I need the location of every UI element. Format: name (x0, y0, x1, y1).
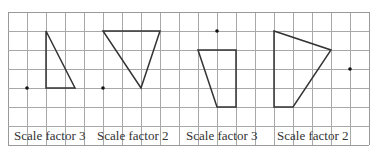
scale-factor-label-3: Scale factor 3 (186, 126, 257, 145)
centre-of-enlargement-dot-1 (25, 86, 29, 90)
centre-of-enlargement-dot-3 (215, 29, 219, 33)
triangle-shape-2 (103, 31, 160, 88)
scale-factor-label-1: Scale factor 3 (14, 126, 85, 145)
centre-of-enlargement-dot-2 (101, 86, 105, 90)
shapes (25, 29, 352, 107)
triangle-shape-1 (46, 31, 75, 88)
scale-factor-label-4: Scale factor 2 (277, 126, 348, 145)
centre-of-enlargement-dot-4 (348, 67, 352, 71)
scale-factor-label-2: Scale factor 2 (97, 126, 168, 145)
